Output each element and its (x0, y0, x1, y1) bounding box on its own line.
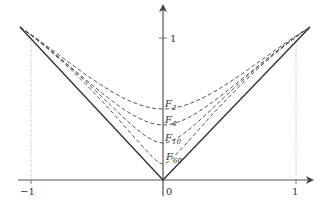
curve-f10 (20, 27, 310, 143)
label-f2: F2 (164, 98, 177, 112)
label-f4: F4 (164, 114, 176, 128)
x-tick-label-0: 0 (166, 186, 172, 197)
x-tick-label-neg1: −1 (20, 186, 35, 197)
y-tick-label-1: 1 (170, 33, 176, 44)
x-tick-label-1: 1 (292, 186, 298, 197)
label-f60: F60 (165, 151, 182, 165)
plot: 1 −1 0 1 F2 F4 F10 F60 (0, 0, 328, 203)
curve-f2 (20, 27, 310, 109)
curve-f4 (20, 27, 310, 125)
label-f10: F10 (164, 132, 181, 146)
curve-f60 (20, 27, 310, 164)
